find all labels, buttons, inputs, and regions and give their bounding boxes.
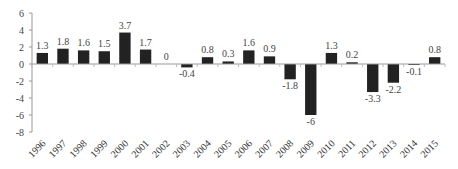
x-tick-label: 1999 xyxy=(88,138,110,160)
data-label: 0.2 xyxy=(346,49,359,60)
x-tick-label: 2001 xyxy=(129,138,151,160)
y-tick-label: -6 xyxy=(16,110,24,121)
y-tick-label: -2 xyxy=(16,76,24,87)
data-label: 1.5 xyxy=(98,38,111,49)
x-tick-label: 2014 xyxy=(398,138,420,160)
data-label: -6 xyxy=(307,116,315,127)
bar-2000 xyxy=(119,33,130,64)
y-tick-label: 4 xyxy=(19,25,24,36)
data-label: 1.7 xyxy=(139,37,152,48)
data-label: 1.3 xyxy=(325,40,338,51)
bar-2013 xyxy=(388,64,399,83)
x-tick-label: 2005 xyxy=(212,138,234,160)
x-tick-label: 1998 xyxy=(67,138,89,160)
data-label: -2.2 xyxy=(385,84,401,95)
data-label: 0.8 xyxy=(201,44,214,55)
bar-2004 xyxy=(202,57,213,64)
x-tick-label: 2015 xyxy=(418,138,440,160)
data-label: 1.3 xyxy=(36,40,49,51)
bar-1997 xyxy=(57,49,68,64)
bar-2009 xyxy=(305,64,316,115)
bar-2006 xyxy=(243,50,254,64)
data-label: -0.1 xyxy=(406,66,422,77)
bar-1998 xyxy=(78,50,89,64)
bar-2015 xyxy=(429,57,440,64)
bar-2001 xyxy=(140,50,151,64)
bar-chart: 6420-2-4-6-8 1.31.81.61.53.71.70-0.40.80… xyxy=(0,0,458,169)
bars: 1.31.81.61.53.71.70-0.40.80.31.60.9-1.8-… xyxy=(36,20,441,127)
bar-2008 xyxy=(284,64,295,79)
x-axis: 1996199719981999200020012002200320042005… xyxy=(26,64,445,160)
data-label: 1.8 xyxy=(57,36,70,47)
y-tick-label: 6 xyxy=(19,8,24,19)
x-tick-label: 1996 xyxy=(26,138,48,160)
x-tick-label: 2008 xyxy=(274,138,296,160)
data-label: 0.8 xyxy=(428,44,441,55)
data-label: 0 xyxy=(164,51,169,62)
data-label: -3.3 xyxy=(365,93,381,104)
y-tick-label: -4 xyxy=(16,93,24,104)
y-tick-label: -8 xyxy=(16,127,24,138)
y-tick-label: 0 xyxy=(19,59,24,70)
bar-2003 xyxy=(181,64,192,67)
bar-1999 xyxy=(99,51,110,64)
x-tick-label: 2013 xyxy=(377,138,399,160)
x-tick-label: 2009 xyxy=(294,138,316,160)
bar-2007 xyxy=(264,56,275,64)
x-tick-label: 2011 xyxy=(336,138,358,160)
x-tick-label: 1997 xyxy=(46,138,68,160)
y-axis: 6420-2-4-6-8 xyxy=(16,8,32,138)
y-tick-label: 2 xyxy=(19,42,24,53)
x-tick-label: 2000 xyxy=(108,138,130,160)
x-tick-label: 2010 xyxy=(315,138,337,160)
data-label: -1.8 xyxy=(282,80,298,91)
data-label: 1.6 xyxy=(243,37,256,48)
data-label: 0.9 xyxy=(263,43,276,54)
x-tick-label: 2007 xyxy=(253,138,275,160)
data-label: 1.6 xyxy=(77,37,90,48)
data-label: -0.4 xyxy=(179,68,195,79)
bar-2010 xyxy=(326,53,337,64)
x-tick-label: 2004 xyxy=(191,138,213,160)
x-tick-label: 2003 xyxy=(170,138,192,160)
x-tick-label: 2006 xyxy=(232,138,254,160)
bar-2012 xyxy=(367,64,378,92)
x-tick-label: 2012 xyxy=(356,138,378,160)
x-tick-label: 2002 xyxy=(150,138,172,160)
bar-1996 xyxy=(37,53,48,64)
data-label: 0.3 xyxy=(222,48,235,59)
data-label: 3.7 xyxy=(119,20,132,31)
